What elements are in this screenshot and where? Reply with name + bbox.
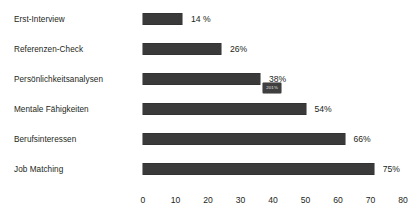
bar-value-label: 26% (230, 44, 247, 54)
x-axis-tick-label: 20 (203, 195, 213, 205)
chart-row: Job Matching75% (0, 154, 419, 184)
x-axis-tick-label: 10 (171, 195, 181, 205)
chart-row: Referenzen-Check26% (0, 34, 419, 64)
bar[interactable] (143, 44, 221, 55)
x-axis-tick-label: 40 (268, 195, 278, 205)
chart-row: Mentale Fähigkeiten54% (0, 94, 419, 124)
bar[interactable] (143, 134, 345, 145)
x-axis-tick-label: 0 (141, 195, 146, 205)
x-axis-tick-label: 70 (366, 195, 376, 205)
x-axis: 01020304050607080 (0, 195, 419, 211)
category-label: Job Matching (14, 165, 63, 174)
value-tooltip-badge: 201% (263, 83, 281, 93)
bar-value-label: 66% (354, 134, 371, 144)
bar-chart: Erst-Interview14 %Referenzen-Check26%Per… (0, 0, 419, 224)
category-label: Erst-Interview (14, 15, 65, 24)
bar[interactable] (143, 164, 374, 175)
category-label: Mentale Fähigkeiten (14, 105, 89, 114)
bar[interactable] (143, 14, 182, 25)
bar[interactable] (143, 74, 260, 85)
chart-row: Persönlichkeitsanalysen38% (0, 64, 419, 94)
x-axis-tick-label: 50 (301, 195, 311, 205)
chart-row: Erst-Interview14 % (0, 4, 419, 34)
bar-value-label: 75% (383, 164, 400, 174)
bar-value-label: 14 % (191, 14, 211, 24)
bar[interactable] (143, 104, 306, 115)
plot-area: Erst-Interview14 %Referenzen-Check26%Per… (0, 0, 419, 224)
category-label: Referenzen-Check (14, 45, 83, 54)
x-axis-tick-label: 80 (398, 195, 408, 205)
category-label: Berufsinteressen (14, 135, 76, 144)
x-axis-tick-label: 60 (333, 195, 343, 205)
category-label: Persönlichkeitsanalysen (14, 75, 103, 84)
chart-row: Berufsinteressen66% (0, 124, 419, 154)
x-axis-tick-label: 30 (236, 195, 246, 205)
bar-value-label: 54% (315, 104, 332, 114)
